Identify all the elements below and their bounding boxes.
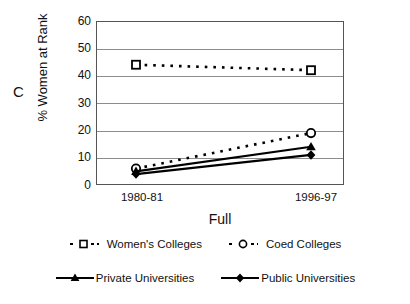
legend-item-womens-colleges: Women's Colleges bbox=[69, 238, 202, 250]
panel-letter: C bbox=[13, 83, 24, 100]
legend-label: Public Universities bbox=[261, 272, 355, 284]
legend-item-public-universities: Public Universities bbox=[220, 272, 355, 284]
chart-figure: C % Women at Rank 60 50 40 30 20 10 0 19… bbox=[0, 0, 410, 304]
chart-legend: Women's Colleges Coed Colleges bbox=[0, 238, 410, 284]
y-tick-label: 10 bbox=[57, 152, 91, 162]
data-point-marker bbox=[307, 66, 315, 74]
data-point-marker bbox=[307, 150, 316, 160]
legend-item-private-universities: Private Universities bbox=[55, 272, 194, 284]
legend-label: Coed Colleges bbox=[266, 238, 341, 250]
y-tick-label: 0 bbox=[57, 180, 91, 190]
open-square-marker-icon bbox=[69, 238, 103, 250]
x-axis-title: Full bbox=[160, 211, 280, 227]
legend-label: Women's Colleges bbox=[107, 238, 202, 250]
legend-label: Private Universities bbox=[96, 272, 194, 284]
y-tick-label: 50 bbox=[57, 43, 91, 53]
y-tick-label: 20 bbox=[57, 125, 91, 135]
filled-diamond-marker-icon bbox=[220, 272, 260, 284]
y-tick-label: 40 bbox=[57, 70, 91, 80]
series-line bbox=[136, 65, 311, 70]
y-axis-title: % Women at Rank bbox=[35, 0, 50, 148]
open-circle-marker-icon bbox=[228, 238, 262, 250]
data-point-marker bbox=[307, 129, 315, 137]
data-point-marker bbox=[132, 61, 140, 69]
legend-item-coed-colleges: Coed Colleges bbox=[228, 238, 341, 250]
filled-triangle-marker-icon bbox=[55, 272, 95, 284]
series-layer bbox=[96, 21, 344, 185]
y-tick-label: 30 bbox=[57, 98, 91, 108]
x-tick-label: 1980-81 bbox=[97, 191, 187, 203]
x-tick-label: 1996-97 bbox=[271, 191, 361, 203]
series-line bbox=[136, 147, 311, 172]
y-tick-label: 60 bbox=[57, 16, 91, 26]
